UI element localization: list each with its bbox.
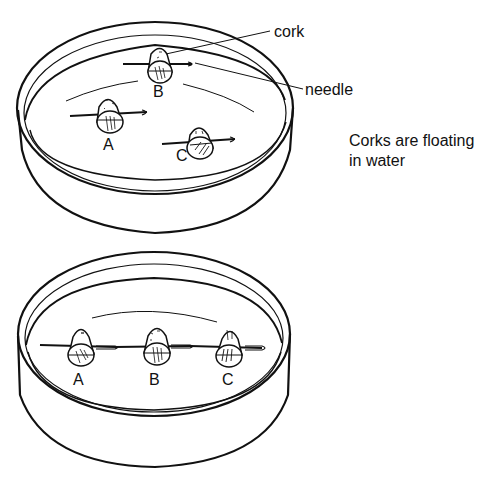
- cork-leader-line: [166, 31, 270, 54]
- caption: Corks are floating in water: [349, 131, 474, 171]
- cork-c-bottom-label: C: [222, 372, 234, 388]
- cork-b-top-label: B: [153, 84, 164, 100]
- cork-c-top-label: C: [176, 148, 188, 164]
- cork-a-bottom-label: A: [73, 372, 84, 388]
- caption-line-2: in water: [349, 151, 474, 171]
- cork-b-bottom-label: B: [149, 372, 160, 388]
- cork-c-top: [162, 128, 235, 159]
- needle-leader-line: [195, 63, 303, 89]
- needle-label: needle: [305, 82, 353, 98]
- cork-label: cork: [274, 24, 304, 40]
- caption-line-1: Corks are floating: [349, 131, 474, 151]
- cork-a-bottom: [40, 330, 118, 367]
- diagram-canvas: [0, 0, 498, 482]
- cork-a-top: [70, 100, 147, 134]
- cork-c-bottom: [190, 330, 265, 367]
- cork-b-bottom: [115, 329, 193, 366]
- cork-a-top-label: A: [103, 137, 114, 153]
- cork-b-top: [123, 49, 192, 84]
